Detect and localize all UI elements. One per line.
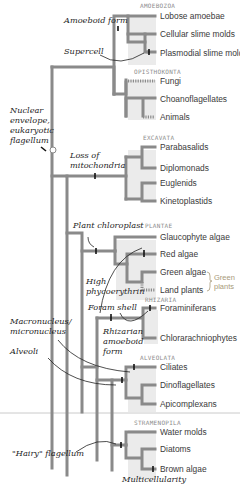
annotation-foram-shell: Foram shell (87, 302, 137, 312)
group-excavata: EXCAVATA (143, 134, 174, 141)
group-stramenopila: STRAMENOPILA (134, 419, 181, 426)
taxon-label: Fungi (160, 76, 181, 86)
group-alveolata: ALVEOLATA (140, 354, 175, 361)
phylogenetic-tree: Green plants AMOEBOZOA OPISTHOKONTA EXCA… (0, 0, 240, 488)
green-plants-bracket (207, 272, 212, 291)
taxon-label: Chlorarachniophytes (160, 333, 237, 343)
group-opisthokonta: OPISTHOKONTA (134, 68, 181, 75)
green-plants-label: plants (214, 282, 234, 291)
annotation-nuclear: eukaryotic (10, 125, 54, 135)
plant-chloroplast-arrow (88, 237, 94, 247)
taxon-label: Animals (160, 112, 190, 122)
amoebozoa-shade (128, 15, 156, 65)
annotation-rhizarian: Rhizarian (102, 326, 143, 336)
taxon-label: Brown algae (160, 464, 207, 474)
taxon-label: Ciliates (160, 362, 187, 372)
annotation-phycoerythrin: High (85, 276, 106, 286)
annotation-amoeboid-form: Amoeboid form (63, 15, 128, 25)
annotation-rhizarian: amoeboid (103, 336, 143, 346)
taxon-label: Plasmodial slime molds (160, 48, 240, 58)
taxon-label: Apicomplexans (160, 399, 217, 409)
annotation-nuclear: envelope, (10, 115, 50, 125)
annotation-nuclear: flagellum (9, 135, 49, 145)
taxon-label: Green algae (160, 267, 206, 277)
annotation-alveoli: Alveoli (9, 346, 39, 356)
group-rhizaria: RHIZARIA (145, 296, 176, 303)
annotation-loss-mito: Loss of (69, 150, 101, 160)
annotation-macronucleus: Macronucleus/ (9, 316, 73, 326)
taxon-label: Foraminiferans (160, 303, 216, 313)
taxon-label: Cellular slime molds (160, 29, 235, 39)
taxon-label: Glaucophyte algae (160, 232, 230, 242)
annotation-loss-mito: mitochondria (70, 160, 125, 170)
taxon-label: Choanoflagellates (160, 94, 227, 104)
annotation-multicellularity: Multicellularity (121, 474, 186, 484)
annotation-rhizarian: form (102, 346, 123, 356)
annotation-supercell: Supercell (64, 46, 104, 56)
annotation-hairy-flagellum: "Hairy" flagellum (12, 448, 84, 458)
green-plants-label: Green (214, 273, 235, 282)
annotation-macronucleus: micronucleus (10, 326, 66, 336)
taxon-label: Lobose amoebae (160, 11, 225, 21)
root-node (50, 147, 56, 153)
taxon-label: Euglenids (160, 178, 197, 188)
taxon-label: Water molds (160, 427, 207, 437)
annotation-plant-chloroplast: Plant chloroplast (72, 220, 144, 230)
taxon-label: Diplomonads (160, 163, 209, 173)
group-plantae: PLANTAE (145, 222, 172, 229)
group-amoebozoa: AMOEBOZOA (140, 2, 175, 9)
taxon-label: Parabasalids (160, 142, 208, 152)
taxon-label: Kinetoplastids (160, 196, 212, 206)
annotation-nuclear: Nuclear (9, 105, 44, 115)
annotation-phycoerythrin: phycoerythrin (86, 286, 144, 296)
taxon-label: Dinoflagellates (160, 380, 215, 390)
taxon-label: Diatoms (160, 444, 191, 454)
nuclear-tick (41, 147, 46, 151)
taxon-label: Red algae (160, 249, 199, 259)
taxon-label: Land plants (160, 285, 203, 295)
